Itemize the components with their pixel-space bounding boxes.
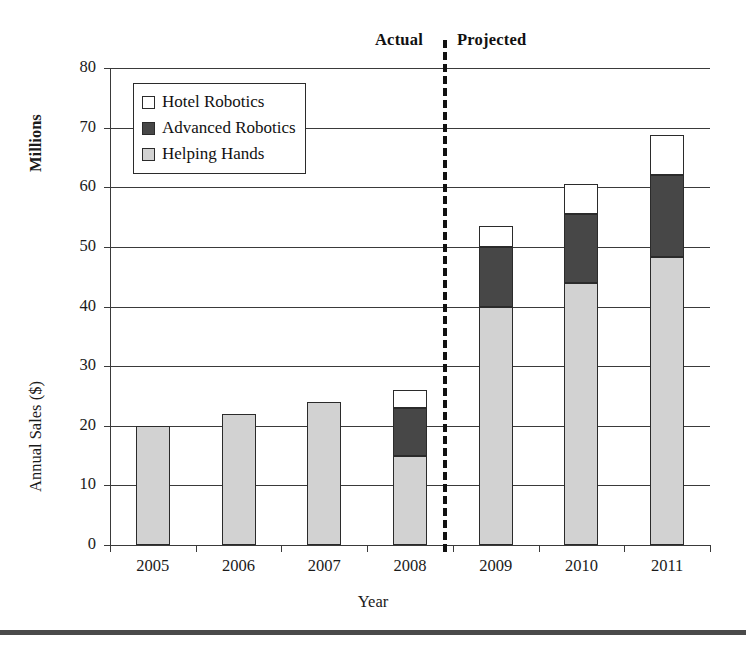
chart-legend: Hotel RoboticsAdvanced RoboticsHelping H… (133, 83, 306, 174)
bar-segment (650, 175, 684, 257)
bar-segment (479, 247, 513, 307)
bar-segment (393, 456, 427, 545)
x-tick-label: 2006 (194, 556, 284, 576)
bar-stack (393, 68, 427, 545)
x-tick-mark (367, 545, 368, 552)
y-tick-label: 60 (48, 176, 96, 196)
y-tick-label: 20 (48, 415, 96, 435)
x-tick-mark (110, 545, 111, 552)
bar-stack (564, 68, 598, 545)
x-tick-label: 2008 (365, 556, 455, 576)
y-tick-label: 40 (48, 296, 96, 316)
y-tick-label: 70 (48, 117, 96, 137)
x-tick-mark (624, 545, 625, 552)
legend-item: Hotel Robotics (142, 89, 296, 115)
legend-swatch-icon (142, 148, 155, 161)
actual-label: Actual (375, 30, 423, 50)
projected-label: Projected (457, 30, 526, 50)
bar-segment (479, 307, 513, 546)
bar-segment (650, 257, 684, 545)
legend-item: Helping Hands (142, 141, 296, 167)
bar-segment (479, 226, 513, 247)
y-axis-unit-label: Millions (26, 114, 46, 172)
bar-segment (393, 408, 427, 456)
x-tick-label: 2005 (108, 556, 198, 576)
bar-segment (393, 390, 427, 408)
y-tick-label: 10 (48, 474, 96, 494)
x-axis-title: Year (0, 592, 746, 612)
x-tick-mark (710, 545, 711, 552)
legend-swatch-icon (142, 96, 155, 109)
chart-figure: Actual Projected Millions Annual Sales (… (0, 0, 746, 648)
bar-stack (650, 68, 684, 545)
x-tick-mark (281, 545, 282, 552)
y-tick-label: 80 (48, 57, 96, 77)
x-tick-mark (196, 545, 197, 552)
bar-segment (564, 184, 598, 214)
x-tick-mark (453, 545, 454, 552)
bar-segment (564, 214, 598, 283)
bar-segment (307, 402, 341, 545)
bar-segment (564, 283, 598, 545)
x-tick-label: 2010 (536, 556, 626, 576)
legend-label: Hotel Robotics (162, 92, 264, 112)
bar-stack (479, 68, 513, 545)
gridline (110, 545, 710, 546)
legend-item: Advanced Robotics (142, 115, 296, 141)
x-tick-label: 2007 (279, 556, 369, 576)
x-tick-label: 2011 (622, 556, 712, 576)
legend-swatch-icon (142, 122, 155, 135)
legend-label: Helping Hands (162, 144, 264, 164)
y-tick-label: 30 (48, 355, 96, 375)
y-tick-label: 50 (48, 236, 96, 256)
bar-segment (222, 414, 256, 545)
y-tick-label: 0 (48, 534, 96, 554)
bar-stack (307, 68, 341, 545)
legend-label: Advanced Robotics (162, 118, 296, 138)
footer-rule (0, 630, 746, 635)
x-tick-label: 2009 (451, 556, 541, 576)
bar-segment (136, 426, 170, 545)
y-axis-title: Annual Sales ($) (26, 381, 46, 492)
bar-segment (650, 135, 684, 175)
phase-divider-line (443, 40, 447, 552)
x-tick-mark (539, 545, 540, 552)
